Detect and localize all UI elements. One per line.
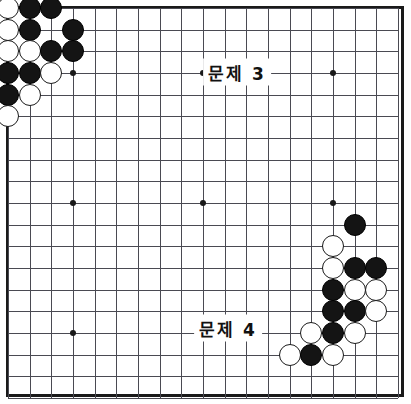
go-problem-figure: 문제 3문제 4	[0, 0, 411, 404]
grid-line-horizontal	[8, 398, 398, 399]
board-border	[6, 6, 404, 397]
